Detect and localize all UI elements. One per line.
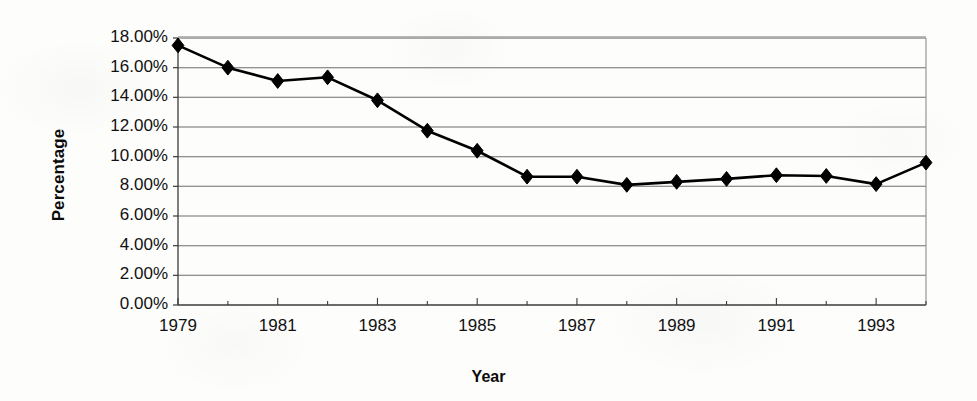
x-tick-label-1993: 1993: [836, 316, 916, 336]
x-tick-label-1981: 1981: [238, 316, 318, 336]
x-axis-tick-labels: 19791981198319851987198919911993: [0, 0, 977, 401]
x-axis-title: Year: [0, 368, 977, 386]
x-tick-label-1979: 1979: [138, 316, 218, 336]
x-tick-label-1991: 1991: [736, 316, 816, 336]
x-tick-label-1983: 1983: [337, 316, 417, 336]
x-tick-label-1989: 1989: [637, 316, 717, 336]
y-axis-title: Percentage: [49, 75, 69, 275]
x-tick-label-1985: 1985: [437, 316, 517, 336]
line-chart-figure: 0.00%2.00%4.00%6.00%8.00%10.00%12.00%14.…: [0, 0, 977, 401]
x-tick-label-1987: 1987: [537, 316, 617, 336]
